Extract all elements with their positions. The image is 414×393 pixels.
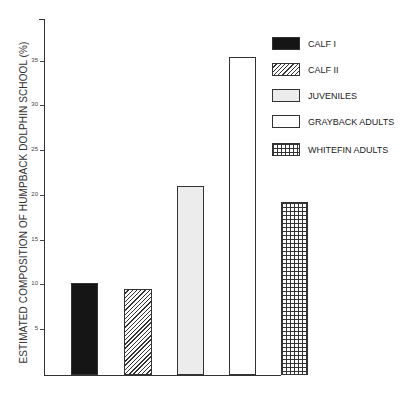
legend-swatch <box>272 89 300 102</box>
y-tick-label: 10 <box>24 280 38 286</box>
y-tick-label: 20 <box>24 191 38 197</box>
y-tick <box>40 150 44 151</box>
bar-calf-1 <box>71 283 98 375</box>
y-axis-label: ESTIMATED COMPOSITION OF HUMPBACK DOLPHI… <box>18 33 29 373</box>
legend-label: WHITEFIN ADULTS <box>308 145 388 155</box>
y-tick <box>40 284 44 285</box>
bar-calf-2 <box>124 289 152 375</box>
legend-swatch <box>272 63 300 76</box>
y-tick <box>40 105 44 106</box>
y-tick-label: 25 <box>24 146 38 152</box>
y-tick <box>40 240 44 241</box>
y-tick-label: 5 <box>24 325 38 331</box>
legend-swatch <box>272 115 300 128</box>
y-axis-cap <box>39 19 45 20</box>
legend-swatch <box>272 143 300 156</box>
bar-whitefin-adults <box>281 202 308 375</box>
y-axis <box>44 19 45 376</box>
bar-juveniles <box>177 186 204 375</box>
legend-label: CALF II <box>308 65 339 75</box>
legend-label: GRAYBACK ADULTS <box>308 117 394 127</box>
x-axis <box>44 375 281 376</box>
y-tick <box>40 61 44 62</box>
y-tick-label: 30 <box>24 101 38 107</box>
legend-label: CALF I <box>308 39 336 49</box>
y-tick <box>40 195 44 196</box>
bar-grayback-adults <box>229 57 256 375</box>
y-tick-label: 35 <box>24 57 38 63</box>
y-tick <box>40 329 44 330</box>
legend-label: JUVENILES <box>308 91 357 101</box>
y-tick-label: 15 <box>24 236 38 242</box>
legend-swatch <box>272 37 300 50</box>
